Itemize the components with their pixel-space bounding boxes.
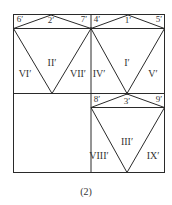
point-label-5: 5′ <box>156 15 162 24</box>
region-label-III: III′ <box>121 137 133 147</box>
region-label-II: II′ <box>48 58 57 68</box>
region-label-VIII: VIII′ <box>89 151 108 161</box>
point-label-1: 1′ <box>125 16 131 25</box>
figure-caption: (2) <box>0 186 172 197</box>
point-label-7: 7′ <box>81 15 87 24</box>
point-label-9: 9′ <box>156 95 162 104</box>
point-label-8: 8′ <box>94 95 100 104</box>
point-label-2: 2′ <box>48 16 54 25</box>
net-diagram <box>0 0 172 205</box>
region-label-I: I′ <box>124 58 130 68</box>
region-label-IX: IX′ <box>147 151 160 161</box>
vertex-dot <box>126 92 128 94</box>
region-label-VII: VII′ <box>70 69 86 79</box>
point-label-4: 4′ <box>94 15 100 24</box>
region-label-VI: VI′ <box>19 69 32 79</box>
vertex-dot <box>90 27 93 30</box>
point-label-3: 3′ <box>124 97 130 106</box>
point-label-6: 6′ <box>17 15 23 24</box>
region-label-IV: IV′ <box>93 69 106 79</box>
region-label-V: V′ <box>148 69 157 79</box>
